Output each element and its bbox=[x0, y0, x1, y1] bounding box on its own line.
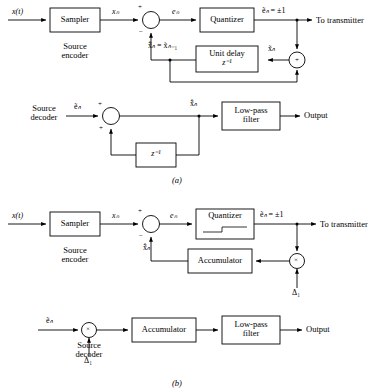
panel-b-decoder-input-label: ẽₙ bbox=[46, 317, 53, 325]
panel-b-error-signal-label: eₙ bbox=[170, 212, 177, 220]
panel-b-to-transmitter-label: To transmitter bbox=[320, 220, 368, 229]
panel-b-decoder-step-size-label: Δ₁ bbox=[84, 357, 92, 365]
panel-b-multiplier-symbol: × bbox=[294, 257, 298, 264]
panel-b-quantizer-block-label: Quantizer bbox=[196, 211, 254, 220]
panel-b-lpf-line2: filter bbox=[243, 328, 260, 338]
panel-a-summing-plus-sign: + bbox=[138, 4, 142, 11]
panel-b-step-size-label: Δ₁ bbox=[292, 289, 300, 297]
panel-a-input-signal: x(t) bbox=[12, 8, 23, 16]
panel-b-decoder-output-label: Output bbox=[306, 325, 330, 334]
panel-b-input-signal: x(t) bbox=[12, 212, 23, 220]
panel-a-error-signal-label: eₙ bbox=[172, 8, 179, 16]
panel-b-source-encoder-label: Source encoder bbox=[38, 246, 112, 264]
panel-a-decoder-summing-plus-bottom: + bbox=[99, 125, 103, 132]
panel-a-lowpass-filter-block-label: Low-pass filter bbox=[222, 106, 280, 124]
panel-b-caption: (b) bbox=[172, 378, 182, 388]
panel-b-sampler-block-label: Sampler bbox=[50, 219, 100, 228]
panel-a-decoder-input-label: ẽₙ bbox=[74, 103, 81, 111]
panel-b-sampled-signal-label: xₙ bbox=[112, 212, 119, 220]
panel-a-decoder-reconstructed-label: x̃̂ₙ bbox=[190, 100, 197, 108]
panel-a-summing-minus-sign: − bbox=[139, 29, 143, 36]
panel-a-decoder-output-label: Output bbox=[304, 111, 328, 120]
panel-a-sampled-signal-label: xₙ bbox=[112, 8, 119, 16]
panel-a-source-decoder-line2: decoder bbox=[31, 112, 58, 122]
panel-a-unit-delay-line2: z⁻¹ bbox=[222, 58, 232, 67]
panel-a-to-transmitter-label: To transmitter bbox=[316, 16, 364, 25]
panel-b-decoder-multiplier-symbol: × bbox=[86, 326, 90, 333]
panel-a-quantizer-block-label: Quantizer bbox=[200, 15, 254, 24]
panel-a-unit-delay-line1: Unit delay bbox=[209, 48, 245, 58]
panel-a-source-decoder-label: Source decoder bbox=[16, 104, 72, 122]
panel-a-unit-delay-block-label: Unit delay z⁻¹ bbox=[196, 49, 258, 67]
panel-a-feedback-signal-label: x̃̂ₙ = x̃ₙ₋₁ bbox=[148, 42, 177, 50]
panel-a-decoder-unit-delay-label: z⁻¹ bbox=[136, 150, 176, 158]
panel-b-summing-minus-sign: − bbox=[139, 233, 143, 240]
panel-a-lpf-line2: filter bbox=[243, 114, 260, 124]
panel-a-reconstructed-signal-label: x̃ₙ bbox=[268, 45, 275, 53]
panel-b-summing-plus-sign: + bbox=[138, 208, 142, 215]
panel-b-source-encoder-line2: encoder bbox=[62, 254, 89, 264]
panel-b-decoder-lowpass-filter-block-label: Low-pass filter bbox=[222, 320, 280, 338]
panel-b-decoder-accumulator-block-label: Accumulator bbox=[132, 325, 196, 334]
panel-a-source-encoder-label: Source encoder bbox=[38, 42, 112, 60]
panel-a-source-encoder-line2: encoder bbox=[62, 50, 89, 60]
panel-a-sampler-block-label: Sampler bbox=[50, 15, 100, 24]
panel-b-accumulator-block-label: Accumulator bbox=[188, 256, 252, 265]
panel-a-decoder-summing-plus-top: + bbox=[98, 101, 102, 108]
panel-a-caption: (a) bbox=[172, 175, 182, 185]
panel-a-transmitted-signal-label: ẽₙ = ±1 bbox=[262, 7, 285, 15]
panel-a-adder-plus-sign: + bbox=[295, 57, 299, 64]
panel-b-transmitted-signal-label: ẽₙ = ±1 bbox=[260, 211, 283, 219]
panel-b-feedback-signal-label: x̃̂ₙ bbox=[143, 244, 150, 252]
